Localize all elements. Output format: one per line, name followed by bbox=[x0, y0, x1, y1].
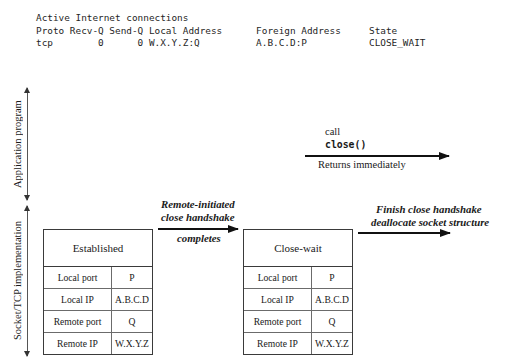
socket-table-close-wait: Close-wait Local port P Local IP A.B.C.D… bbox=[243, 229, 353, 355]
field-key: Remote IP bbox=[244, 333, 312, 354]
field-key: Local port bbox=[44, 267, 112, 288]
table-row: Remote port Q bbox=[244, 311, 352, 333]
diagram-canvas: Active Internet connections Proto Recv-Q… bbox=[0, 0, 512, 361]
field-key: Local port bbox=[244, 267, 312, 288]
field-value: Q bbox=[312, 311, 352, 332]
field-value: W.X.Y.Z bbox=[312, 333, 352, 354]
completes-label: completes bbox=[177, 232, 221, 245]
call-label: call bbox=[325, 126, 340, 139]
field-key: Local IP bbox=[44, 289, 112, 310]
field-value: A.B.C.D bbox=[112, 289, 152, 310]
field-key: Local IP bbox=[244, 289, 312, 310]
table-row: Local IP A.B.C.D bbox=[244, 289, 352, 311]
finish-close-label-line1: Finish close handshake bbox=[376, 203, 482, 216]
table-row: Remote IP W.X.Y.Z bbox=[244, 333, 352, 354]
application-layer-axis bbox=[27, 88, 28, 200]
table-row: Local port P bbox=[244, 267, 352, 289]
remote-close-transition-arrow bbox=[158, 228, 238, 230]
table-row: Remote IP W.X.Y.Z bbox=[44, 333, 152, 354]
socket-table-established: Established Local port P Local IP A.B.C.… bbox=[43, 229, 153, 355]
socket-table-title: Close-wait bbox=[244, 230, 352, 267]
field-value: A.B.C.D bbox=[312, 289, 352, 310]
field-key: Remote port bbox=[44, 311, 112, 332]
socket-tcp-layer-label: Socket/TCP implementation bbox=[12, 208, 23, 354]
table-row: Local port P bbox=[44, 267, 152, 289]
finish-close-arrow bbox=[358, 232, 450, 234]
finish-close-label-line2: deallocate socket structure bbox=[371, 216, 489, 229]
field-value: P bbox=[312, 267, 352, 288]
returns-immediately-label: Returns immediately bbox=[318, 159, 406, 172]
remote-initiated-label-line2: close handshake bbox=[161, 211, 235, 224]
field-value: W.X.Y.Z bbox=[112, 333, 152, 354]
socket-tcp-layer-axis bbox=[27, 206, 28, 356]
close-call-label: close() bbox=[325, 139, 366, 152]
close-call-arrow bbox=[305, 155, 449, 157]
field-key: Remote port bbox=[244, 311, 312, 332]
netstat-output: Active Internet connections Proto Recv-Q… bbox=[36, 12, 425, 50]
application-layer-label: Application program bbox=[12, 90, 23, 198]
socket-table-title: Established bbox=[44, 230, 152, 267]
field-key: Remote IP bbox=[44, 333, 112, 354]
table-row: Local IP A.B.C.D bbox=[44, 289, 152, 311]
table-row: Remote port Q bbox=[44, 311, 152, 333]
field-value: P bbox=[112, 267, 152, 288]
field-value: Q bbox=[112, 311, 152, 332]
remote-initiated-label-line1: Remote-initiated bbox=[161, 198, 235, 211]
